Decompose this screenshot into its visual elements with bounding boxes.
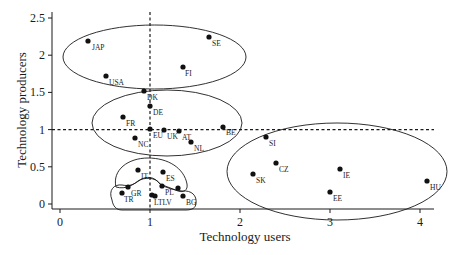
point-PL — [159, 183, 164, 188]
label-LTLV: LTLV — [154, 198, 172, 207]
point-IT — [135, 167, 140, 172]
data-points — [85, 34, 429, 198]
label-NC: NC — [138, 140, 148, 149]
x-tick-labels: 0 1 2 3 4 — [57, 215, 423, 229]
point-EU — [147, 126, 152, 131]
point-HU — [424, 178, 429, 183]
scatter-chart: 0 0.5 1 1.5 2 2.5 0 1 2 3 4 Technology u… — [0, 0, 459, 255]
y-tick-label: 1 — [39, 123, 45, 137]
point-labels: JAP USA SE FI DK DE FR EU UK AT NC NL BE… — [92, 39, 441, 207]
point-BE — [220, 124, 225, 129]
label-IT: IT — [141, 172, 148, 181]
point-RO — [175, 185, 180, 190]
point-CZ — [273, 160, 278, 165]
y-tick-label: 0 — [39, 197, 45, 211]
label-SE: SE — [212, 39, 221, 48]
label-CZ: CZ — [279, 165, 289, 174]
cluster-users-ellipse — [227, 123, 447, 220]
point-FR — [120, 114, 125, 119]
x-tick-label: 3 — [327, 215, 333, 229]
label-ES: ES — [166, 174, 175, 183]
point-NC — [132, 135, 137, 140]
y-tick-label: 1.5 — [30, 85, 45, 99]
axes — [48, 12, 434, 213]
label-UK: UK — [167, 132, 178, 141]
x-tick-label: 1 — [147, 215, 153, 229]
label-DK: DK — [147, 93, 158, 102]
x-tick-label: 0 — [57, 215, 63, 229]
label-TR: TR — [124, 195, 134, 204]
point-JAP — [85, 38, 90, 43]
point-DE — [147, 103, 152, 108]
label-PL: PL — [165, 188, 174, 197]
label-USA: USA — [109, 78, 125, 87]
point-SI — [263, 134, 268, 139]
point-BG — [180, 193, 185, 198]
cluster-outlines — [63, 25, 447, 220]
point-ES — [160, 169, 165, 174]
label-NL: NL — [194, 144, 204, 153]
label-AT: AT — [182, 133, 192, 142]
point-SK — [250, 171, 255, 176]
label-JAP: JAP — [92, 43, 105, 52]
label-BE: BE — [226, 128, 236, 137]
label-SI: SI — [269, 139, 276, 148]
y-tick-label: 2.5 — [30, 11, 45, 25]
label-EU: EU — [153, 131, 164, 140]
point-EE — [327, 189, 332, 194]
x-tick-label: 2 — [237, 215, 243, 229]
label-EE: EE — [333, 194, 343, 203]
point-GR — [125, 184, 130, 189]
label-DE: DE — [153, 108, 163, 117]
cluster-leaders-ellipse — [63, 25, 246, 89]
point-IE — [337, 166, 342, 171]
y-tick-labels: 0 0.5 1 1.5 2 2.5 — [30, 11, 45, 211]
label-BG: BG — [186, 198, 197, 207]
label-IE: IE — [343, 171, 350, 180]
point-SE — [206, 34, 211, 39]
y-axis-title: Technology producers — [14, 52, 29, 168]
point-USA — [103, 73, 108, 78]
label-HU: HU — [430, 183, 441, 192]
label-FR: FR — [126, 119, 135, 128]
x-axis-title: Technology users — [199, 229, 290, 244]
y-tick-label: 2 — [39, 48, 45, 62]
y-tick-label: 0.5 — [30, 160, 45, 174]
reference-lines — [52, 12, 434, 209]
x-tick-label: 4 — [417, 215, 423, 229]
label-FI: FI — [185, 69, 192, 78]
point-DK — [141, 88, 146, 93]
label-SK: SK — [256, 176, 266, 185]
cluster-core-ellipse — [92, 90, 242, 156]
